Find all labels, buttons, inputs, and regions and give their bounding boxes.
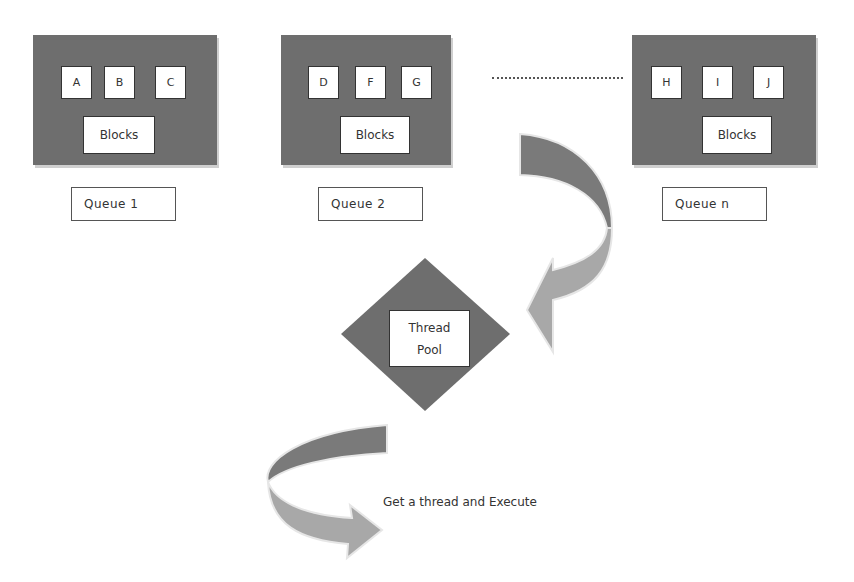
thread-pool-line1: Thread <box>409 317 451 339</box>
block-item: D <box>308 66 339 99</box>
queue-n-container: H I J Blocks <box>632 35 816 165</box>
blocks-label: Blocks <box>702 116 772 154</box>
queue-2-container: D F G Blocks <box>281 35 451 165</box>
block-item: B <box>104 66 135 99</box>
blocks-label: Blocks <box>83 116 155 154</box>
block-item: I <box>702 66 733 99</box>
execute-caption: Get a thread and Execute <box>383 495 537 509</box>
thread-pool-label: Thread Pool <box>389 310 470 367</box>
queue-n-label: Queue n <box>662 187 767 221</box>
blocks-label: Blocks <box>340 116 410 154</box>
curved-arrow-to-pool-icon <box>520 134 612 352</box>
block-item: J <box>753 66 784 99</box>
block-item: C <box>155 66 186 99</box>
thread-pool-line2: Pool <box>417 339 442 361</box>
curved-arrow-to-execute-icon <box>267 425 387 558</box>
block-item: H <box>651 66 682 99</box>
block-item: A <box>61 66 92 99</box>
ellipsis-dotted-line <box>492 77 623 79</box>
block-item: G <box>401 66 432 99</box>
queue-1-label: Queue 1 <box>71 187 176 221</box>
block-item: F <box>355 66 386 99</box>
queue-2-label: Queue 2 <box>318 187 423 221</box>
queue-1-container: A B C Blocks <box>33 35 217 165</box>
